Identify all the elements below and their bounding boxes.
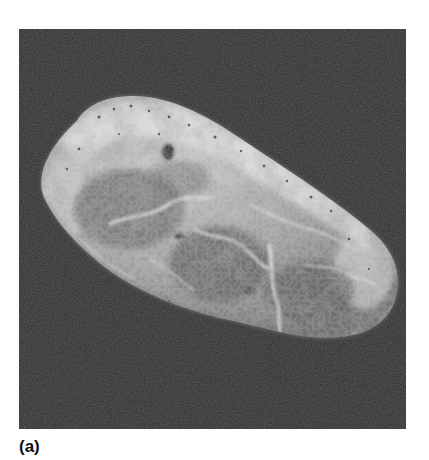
particle-micrograph-graphic [19, 29, 406, 429]
panel-label: (a) [19, 437, 40, 457]
figure-panel: (a) [0, 0, 429, 460]
micrograph-image [19, 29, 406, 429]
